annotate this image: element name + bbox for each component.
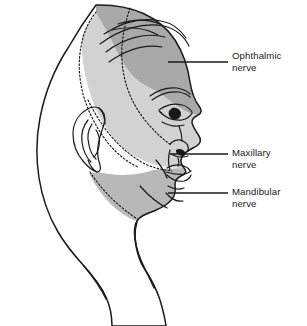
label-ophthalmic-line2: nerve	[232, 62, 282, 74]
label-ophthalmic-nerve: Ophthalmic nerve	[232, 50, 282, 73]
anatomy-figure: Ophthalmic nerve Maxillary nerve Mandibu…	[0, 0, 307, 326]
label-maxillary-line1: Maxillary	[232, 147, 271, 158]
label-maxillary-nerve: Maxillary nerve	[232, 147, 271, 170]
label-maxillary-line2: nerve	[232, 159, 271, 171]
label-mandibular-nerve: Mandibular nerve	[232, 186, 280, 209]
label-mandibular-line1: Mandibular	[232, 186, 280, 197]
label-ophthalmic-line1: Ophthalmic	[232, 50, 282, 61]
label-mandibular-line2: nerve	[232, 198, 280, 210]
